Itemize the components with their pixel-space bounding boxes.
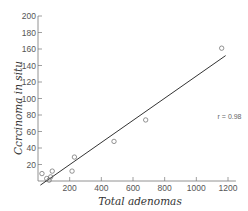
data-point bbox=[112, 139, 116, 143]
y-tick-label: 200 bbox=[22, 11, 36, 21]
regression-line bbox=[40, 56, 225, 186]
x-tick-label: 1000 bbox=[187, 183, 206, 193]
scatter-chart: 2040608010012014016018020020040060080010… bbox=[0, 0, 248, 211]
x-tick-label: 600 bbox=[126, 183, 140, 193]
data-point bbox=[70, 169, 74, 173]
data-point bbox=[219, 46, 223, 50]
y-tick-label: 160 bbox=[22, 44, 36, 54]
fit-line bbox=[40, 56, 225, 186]
y-tick-label: 20 bbox=[27, 160, 37, 170]
data-points bbox=[40, 46, 224, 182]
y-tick-label: 180 bbox=[22, 28, 36, 38]
x-tick-label: 1200 bbox=[219, 183, 238, 193]
data-point bbox=[143, 118, 147, 122]
data-point bbox=[72, 155, 76, 159]
data-point bbox=[40, 171, 44, 175]
axes: 2040608010012014016018020020040060080010… bbox=[22, 11, 238, 193]
r-value-annotation: r = 0.98 bbox=[218, 113, 242, 120]
x-tick-label: 400 bbox=[94, 183, 108, 193]
y-axis-title: Ccrcinoma in situ bbox=[12, 61, 24, 155]
y-tick-label: 40 bbox=[27, 143, 37, 153]
y-tick-label: 80 bbox=[27, 110, 37, 120]
x-axis-title: Total adenomas bbox=[98, 195, 182, 207]
x-tick-label: 200 bbox=[63, 183, 77, 193]
y-tick-label: 60 bbox=[27, 127, 37, 137]
data-point bbox=[50, 169, 54, 173]
x-tick-label: 800 bbox=[158, 183, 172, 193]
